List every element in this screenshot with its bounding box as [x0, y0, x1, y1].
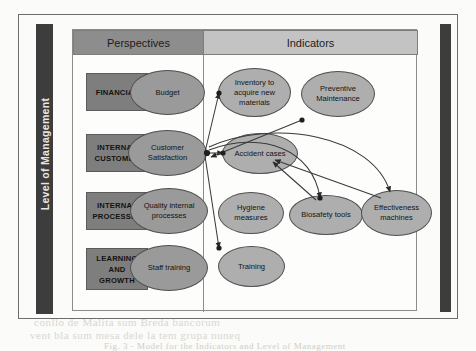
ellipse-inventory-to-acquire-new-materials[interactable]: Inventory to acquire new materials	[218, 68, 291, 117]
ellipse-label: Inventory to acquire new materials	[224, 78, 285, 108]
ellipse-budget[interactable]: Budget	[130, 70, 205, 115]
ellipse-label: Training	[238, 262, 265, 272]
right-accent-bar	[440, 24, 451, 312]
connector-effectiveness-accidentcases	[275, 160, 381, 198]
column-header-perspectives: Perspectives	[73, 30, 204, 55]
figure-page: Hilo vario dele Indicatore dello Stocco …	[0, 0, 476, 351]
ellipse-preventive-maintenance[interactable]: Preventive Maintenance	[301, 71, 375, 117]
ellipse-label: Effectiveness machines	[367, 203, 426, 223]
ellipse-label: Quality internal processes	[136, 201, 202, 221]
ellipse-training[interactable]: Training	[218, 246, 285, 287]
ghost-line: vent bla sum mesa dele la tem grupa nune…	[30, 329, 241, 341]
ellipse-hygiene-measures[interactable]: Hygiene measures	[218, 192, 284, 234]
ellipse-label: Biosafety tools	[301, 210, 350, 220]
connector-cs-training	[205, 156, 219, 248]
ellipse-label: Accident cases	[234, 149, 285, 159]
ellipse-accident-cases[interactable]: Accident cases	[222, 133, 298, 174]
ellipse-label: Staff training	[148, 263, 191, 273]
figure-caption: Fig. 3 - Model for the Indicators and Le…	[104, 341, 346, 351]
ellipse-effectiveness-machines[interactable]: Effectiveness machines	[361, 190, 432, 236]
level-of-management-bar: Level of Management	[36, 24, 53, 314]
column-header-indicators: Indicators	[203, 30, 418, 55]
level-of-management-label: Level of Management	[39, 44, 51, 264]
ellipse-label: Hygiene measures	[224, 203, 278, 223]
connector-cs-inventory	[205, 93, 219, 152]
ellipse-staff-training[interactable]: Staff training	[130, 245, 208, 291]
endpoint-dot	[216, 245, 221, 250]
ellipse-label: Customer Satisfaction	[134, 143, 201, 163]
ellipse-customer-satisfaction[interactable]: Customer Satisfaction	[128, 130, 207, 176]
perspective-label-line: AND	[108, 264, 125, 275]
ellipse-quality-internal-processes[interactable]: Quality internal processes	[130, 188, 208, 234]
ellipse-label: Preventive Maintenance	[307, 84, 369, 104]
ellipse-label: Budget	[155, 88, 179, 98]
endpoint-dot	[299, 117, 304, 122]
ellipse-biosafety-tools[interactable]: Biosafety tools	[289, 195, 363, 235]
perspective-label-line: GROWTH	[99, 275, 135, 286]
diagram-container: Perspectives Indicators FINANCIAL INTERN…	[72, 29, 417, 311]
